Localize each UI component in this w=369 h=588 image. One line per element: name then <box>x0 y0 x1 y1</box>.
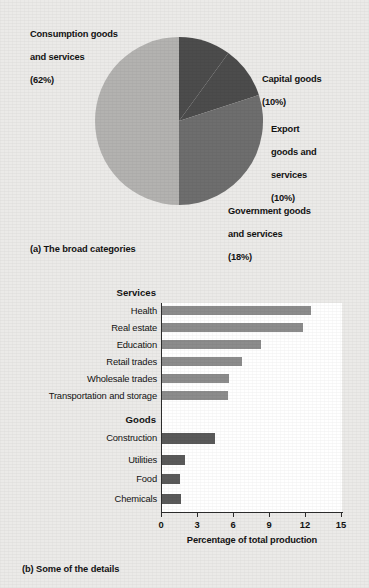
bar-retail-trades <box>162 357 242 366</box>
x-axis-line <box>161 512 343 513</box>
x-tick-12 <box>305 512 306 517</box>
x-tick-label-12: 12 <box>300 519 310 530</box>
pie-label-government-value: (18%) <box>228 252 252 262</box>
x-tick-15 <box>341 512 342 517</box>
x-tick-6 <box>233 512 234 517</box>
bar-label-chemicals: Chemicals <box>6 493 157 504</box>
figure-page: Consumption goods and services (62%) Cap… <box>0 0 369 588</box>
group-heading-services: Services <box>6 287 156 298</box>
bar-food <box>162 474 180 484</box>
x-tick-label-0: 0 <box>158 519 163 530</box>
x-tick-9 <box>269 512 270 517</box>
pie-label-consumption-value: (62%) <box>30 75 54 85</box>
pie-label-capital-line1: Capital goods <box>262 74 322 84</box>
x-tick-label-15: 15 <box>336 519 346 530</box>
x-tick-3 <box>197 512 198 517</box>
bar-health <box>162 306 311 315</box>
x-tick-0 <box>161 512 162 517</box>
bar-chemicals <box>162 494 181 504</box>
pie-label-consumption-line2: and services <box>30 52 85 62</box>
bar-transportation-and-storage <box>162 391 228 400</box>
pie-label-capital-value: (10%) <box>262 97 286 107</box>
x-tick-label-9: 9 <box>266 519 271 530</box>
panel-a-pie-chart: Consumption goods and services (62%) Cap… <box>0 0 369 274</box>
y-axis-line <box>161 303 162 512</box>
x-tick-label-3: 3 <box>194 519 199 530</box>
pie-label-export-line2: goods and <box>271 147 317 157</box>
bar-education <box>162 340 261 349</box>
panel-b-caption: (b) Some of the details <box>22 564 119 574</box>
bar-real-estate <box>162 323 303 332</box>
bar-label-education: Education <box>6 339 157 350</box>
bar-chart: Services Health Real estate Education Re… <box>0 274 369 564</box>
x-tick-label-6: 6 <box>230 519 235 530</box>
pie-label-capital-goods: Capital goods (10%) <box>262 62 322 108</box>
pie-label-consumption: Consumption goods and services (62%) <box>30 17 118 87</box>
bar-label-food: Food <box>6 473 157 484</box>
pie-label-consumption-line1: Consumption goods <box>30 29 118 39</box>
bar-label-construction: Construction <box>6 432 157 443</box>
panel-a-caption: (a) The broad categories <box>30 244 136 254</box>
bar-label-transportation-and-storage: Transportation and storage <box>6 390 157 401</box>
bar-label-real-estate: Real estate <box>6 322 157 333</box>
bar-utilities <box>162 455 185 465</box>
pie-label-export-goods: Export goods and services (10%) <box>271 112 317 205</box>
bar-construction <box>162 433 215 444</box>
panel-b-bar-chart: Services Health Real estate Education Re… <box>0 274 369 588</box>
pie-chart-svg <box>93 35 265 207</box>
bar-label-wholesale-trades: Wholesale trades <box>6 373 157 384</box>
plot-area-background <box>161 303 342 512</box>
bar-label-retail-trades: Retail trades <box>6 356 157 367</box>
bar-wholesale-trades <box>162 374 229 383</box>
pie-label-export-line3: services <box>271 170 307 180</box>
pie-chart <box>93 35 265 207</box>
pie-label-export-line1: Export <box>271 124 300 134</box>
bar-label-health: Health <box>6 305 157 316</box>
pie-label-government-line1: Government goods <box>228 206 311 216</box>
bar-label-utilities: Utilities <box>6 454 157 465</box>
group-heading-goods: Goods <box>6 414 156 425</box>
x-axis-title: Percentage of total production <box>161 535 343 545</box>
pie-label-government-line2: and services <box>228 229 283 239</box>
pie-label-government-goods: Government goods and services (18%) <box>228 194 311 264</box>
